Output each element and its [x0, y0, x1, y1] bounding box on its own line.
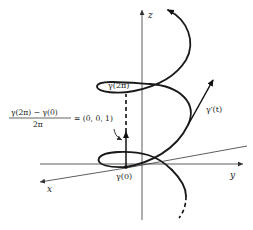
fraction-numerator: γ(2π) − γ(0): [11, 108, 58, 117]
z-axis-label: z: [147, 10, 153, 20]
pointer-arrow: [114, 129, 122, 140]
gamma-0-point: [124, 165, 128, 169]
helix-diagram: z y x γ(2π) γ′(t) γ(0) γ(2π) − γ(0) 2π =…: [0, 0, 253, 230]
x-axis-label: x: [47, 184, 52, 194]
gamma-prime-label: γ′(t): [206, 105, 222, 114]
fraction-equals-value: = (0, 0, 1): [74, 114, 113, 123]
y-axis-label: y: [229, 170, 236, 180]
helix-lower-descent: [172, 170, 186, 196]
plane-line: [126, 146, 247, 168]
fraction-denominator: 2π: [33, 120, 43, 129]
helix-lower-descent-dashed: [179, 196, 186, 218]
gamma-0-label: γ(0): [116, 172, 132, 181]
x-axis: [40, 168, 126, 182]
gamma-2pi-label: γ(2π): [108, 81, 129, 90]
tangent-vector: [188, 80, 213, 125]
